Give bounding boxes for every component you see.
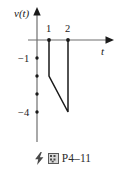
- y-tick-dot-minus4: [35, 110, 38, 113]
- grid-square-icon: [48, 153, 59, 164]
- figure-caption: P4–11: [0, 149, 125, 167]
- waveform-trace: [49, 40, 68, 112]
- x-tick-label-2: 2: [65, 23, 70, 34]
- y-axis-label: v(t): [14, 7, 30, 20]
- marked-point-t2: [66, 38, 70, 42]
- caption-label: P4–11: [62, 152, 91, 164]
- lightning-bolt-icon: [34, 152, 45, 165]
- y-tick-label-minus4: −4: [18, 107, 30, 118]
- marked-point-t1: [47, 38, 51, 42]
- x-axis-arrowhead: [106, 36, 115, 43]
- y-tick-dot-minus3: [35, 92, 38, 95]
- x-axis-label: t: [101, 45, 105, 57]
- waveform-plot: v(t) t 1 2 −1 −4: [0, 0, 125, 172]
- y-tick-label-minus1: −1: [18, 53, 29, 64]
- y-tick-dot-minus2: [35, 74, 38, 77]
- y-axis-arrowhead: [33, 7, 40, 16]
- x-tick-label-1: 1: [46, 23, 51, 34]
- figure-container: v(t) t 1 2 −1 −4 P4–11: [0, 0, 125, 172]
- y-tick-dot-minus1: [35, 56, 38, 59]
